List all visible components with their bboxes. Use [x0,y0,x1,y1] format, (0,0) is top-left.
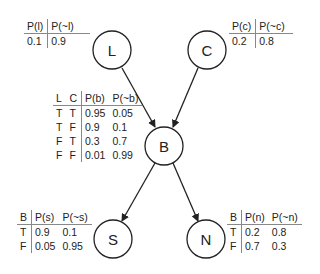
edge-c-b [173,68,198,127]
cpt-s-header: B [17,210,32,225]
table-row: T T 0.95 0.05 [53,106,142,121]
cpt-s-cell: 0.05 [32,239,60,253]
cpt-n-cell: T [227,225,242,240]
cpt-s-cell: 0.95 [59,239,91,253]
table-row: F 0.7 0.3 [227,239,302,253]
cpt-n-cell: F [227,239,242,253]
table-row: T F 0.9 0.1 [53,120,142,134]
edge-b-s [122,163,155,221]
cpt-n-header: P(~n) [269,210,302,225]
cpt-n-cell: 0.8 [269,225,302,240]
node-s-label: S [108,231,118,248]
cpt-b-cell: T [66,134,81,148]
cpt-b-cell: 0.9 [82,120,110,134]
node-s: S [94,220,132,258]
cpt-b-cell: F [66,120,81,134]
cpt-b-cell: F [53,148,66,162]
node-b: B [145,127,183,165]
table-row: T 0.2 0.8 [227,225,302,240]
cpt-b-cell: F [66,148,81,162]
node-c: C [188,31,226,69]
cpt-b-cell: 0.05 [109,106,142,121]
cpt-b-cell: 0.01 [82,148,110,162]
cpt-b-header: L [53,91,66,106]
cpt-b-cell: 0.95 [82,106,110,121]
cpt-b-cell: T [53,106,66,121]
cpt-b-cell: 0.3 [82,134,110,148]
cpt-s-cell: 0.1 [59,225,91,240]
cpt-b-cell: T [66,106,81,121]
cpt-l-cell: 0.9 [48,34,90,49]
cpt-c-table: P(c) P(~c) 0.2 0.8 [229,19,293,48]
cpt-n-cell: 0.3 [269,239,302,253]
cpt-b-header: P(~b) [109,91,142,106]
node-n: N [187,220,225,258]
node-b-label: B [159,138,169,155]
cpt-l-header: P(~l) [48,19,90,34]
cpt-n-cell: 0.7 [242,239,269,253]
node-l: L [93,31,131,69]
node-n-label: N [201,231,212,248]
cpt-s-cell: 0.9 [32,225,60,240]
cpt-n-header: P(n) [242,210,269,225]
cpt-b-header: C [66,91,81,106]
cpt-s-cell: F [17,239,32,253]
edge-b-n [173,163,198,221]
cpt-c-cell: 0.8 [256,34,293,49]
table-row: T 0.9 0.1 [17,225,92,240]
cpt-s-header: P(~s) [59,210,91,225]
cpt-b-cell: 0.1 [109,120,142,134]
cpt-b-cell: 0.99 [109,148,142,162]
table-row: F T 0.3 0.7 [53,134,142,148]
cpt-l-cell: 0.1 [24,34,48,49]
node-l-label: L [108,42,116,59]
cpt-n-header: B [227,210,242,225]
table-row: F F 0.01 0.99 [53,148,142,162]
cpt-n-cell: 0.2 [242,225,269,240]
cpt-b-cell: T [53,120,66,134]
cpt-n-table: B P(n) P(~n) T 0.2 0.8 F 0.7 0.3 [227,210,302,253]
cpt-b-cell: F [53,134,66,148]
cpt-s-cell: T [17,225,32,240]
cpt-l-table: P(l) P(~l) 0.1 0.9 [24,19,90,48]
node-c-label: C [202,42,213,59]
cpt-c-header: P(c) [229,19,256,34]
table-row: F 0.05 0.95 [17,239,92,253]
cpt-b-header: P(b) [82,91,110,106]
cpt-l-header: P(l) [24,19,48,34]
cpt-s-header: P(s) [32,210,60,225]
cpt-c-header: P(~c) [256,19,293,34]
cpt-s-table: B P(s) P(~s) T 0.9 0.1 F 0.05 0.95 [17,210,92,253]
cpt-b-table: L C P(b) P(~b) T T 0.95 0.05 T F 0.9 0.1… [53,91,142,162]
cpt-c-cell: 0.2 [229,34,256,49]
cpt-b-cell: 0.7 [109,134,142,148]
